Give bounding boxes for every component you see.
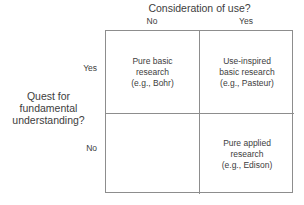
column-axis-title: Consideration of use? — [105, 2, 294, 14]
row-label-yes: Yes — [55, 63, 97, 73]
quadrant-top-left-line-1: Pure basic — [131, 56, 174, 67]
quadrant-top-right-line-1: Use-inspired — [219, 56, 274, 67]
quadrant-bottom-right-line-1: Pure applied — [222, 138, 273, 149]
quadrant-matrix: Pure basic research (e.g., Bohr) Use-ins… — [105, 30, 293, 193]
quadrant-cell-top-right-text: Use-inspired basic research (e.g., Paste… — [219, 56, 274, 89]
quadrant-top-left-line-3: (e.g., Bohr) — [131, 78, 174, 89]
column-label-yes: Yes — [199, 16, 293, 26]
quadrant-cell-bottom-right: Pure applied research (e.g., Edison) — [200, 114, 294, 194]
quadrant-cell-top-left-text: Pure basic research (e.g., Bohr) — [131, 56, 174, 89]
quadrant-bottom-right-line-3: (e.g., Edison) — [222, 160, 273, 171]
column-label-no: No — [105, 16, 199, 26]
row-axis-title: Quest for fundamental understanding? — [0, 90, 97, 127]
row-axis-title-line-2: fundamental — [0, 102, 97, 114]
quadrant-cell-bottom-right-text: Pure applied research (e.g., Edison) — [222, 138, 273, 171]
quadrant-top-right-line-3: (e.g., Pasteur) — [219, 78, 274, 89]
quadrant-top-right-line-2: basic research — [219, 67, 274, 78]
pasteurs-quadrant-figure: Consideration of use? No Yes Quest for f… — [0, 0, 304, 205]
quadrant-bottom-right-line-2: research — [222, 149, 273, 160]
quadrant-cell-bottom-left — [106, 114, 200, 194]
row-axis-title-line-1: Quest for — [0, 90, 97, 102]
quadrant-top-left-line-2: research — [131, 67, 174, 78]
quadrant-cell-top-left: Pure basic research (e.g., Bohr) — [106, 31, 200, 114]
quadrant-cell-top-right: Use-inspired basic research (e.g., Paste… — [200, 31, 294, 114]
row-label-no: No — [55, 143, 97, 153]
row-axis-title-line-3: understanding? — [0, 114, 97, 126]
